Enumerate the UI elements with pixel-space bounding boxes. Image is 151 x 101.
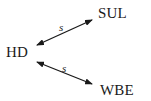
node-hd: HD	[6, 45, 28, 60]
edge-hd-sul-arrow	[37, 20, 92, 45]
node-wbe: WBE	[100, 83, 134, 98]
edge-label-hd-wbe: s	[62, 63, 66, 74]
edge-label-hd-sul: s	[59, 22, 63, 33]
node-sul: SUL	[98, 6, 127, 21]
